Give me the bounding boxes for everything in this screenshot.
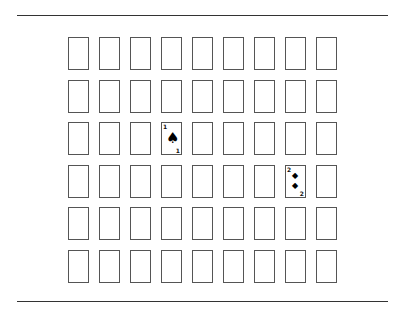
- card-face-down[interactable]: [130, 37, 151, 70]
- diamond-icon: ◆: [292, 172, 298, 180]
- card-face-down[interactable]: [223, 122, 244, 155]
- card-face-down[interactable]: [285, 207, 306, 240]
- card-face-down[interactable]: [99, 80, 120, 113]
- card-face-down[interactable]: [99, 250, 120, 283]
- card-face-down[interactable]: [285, 122, 306, 155]
- card-face-down[interactable]: [192, 80, 213, 113]
- card-face-down[interactable]: [130, 122, 151, 155]
- card-face-down[interactable]: [68, 80, 89, 113]
- card-face-down[interactable]: [316, 37, 337, 70]
- card-face-down[interactable]: [316, 122, 337, 155]
- card-face-down[interactable]: [285, 37, 306, 70]
- card-face-down[interactable]: [285, 250, 306, 283]
- spade-icon: ♠: [166, 131, 179, 146]
- card-face-down[interactable]: [161, 165, 182, 198]
- card-face-down[interactable]: [99, 207, 120, 240]
- card-face-down[interactable]: [223, 37, 244, 70]
- card-face-down[interactable]: [161, 250, 182, 283]
- card-face-down[interactable]: [192, 207, 213, 240]
- bottom-divider: [17, 301, 388, 302]
- top-divider: [17, 15, 388, 16]
- card-face-down[interactable]: [99, 165, 120, 198]
- card-face-down[interactable]: [316, 165, 337, 198]
- card-face-down[interactable]: [254, 165, 275, 198]
- card-face-down[interactable]: [68, 165, 89, 198]
- card-face-down[interactable]: [285, 80, 306, 113]
- card-rank-bottom: 2: [300, 190, 304, 197]
- card-face-up-spade[interactable]: 11♠: [161, 122, 182, 155]
- diamond-icon: ◆: [292, 182, 298, 190]
- card-face-down[interactable]: [192, 165, 213, 198]
- card-grid: 11♠22◆◆: [68, 37, 337, 283]
- card-face-down[interactable]: [254, 122, 275, 155]
- card-rank-top: 2: [287, 166, 291, 173]
- card-face-down[interactable]: [68, 37, 89, 70]
- card-face-down[interactable]: [68, 122, 89, 155]
- card-face-down[interactable]: [161, 80, 182, 113]
- card-face-down[interactable]: [130, 80, 151, 113]
- card-face-down[interactable]: [161, 207, 182, 240]
- card-face-up-diamond[interactable]: 22◆◆: [285, 165, 306, 198]
- card-rank-bottom: 1: [176, 147, 180, 154]
- card-face-down[interactable]: [192, 37, 213, 70]
- card-face-down[interactable]: [99, 37, 120, 70]
- card-face-down[interactable]: [254, 37, 275, 70]
- card-face-down[interactable]: [254, 207, 275, 240]
- card-face-down[interactable]: [223, 207, 244, 240]
- card-face-down[interactable]: [130, 165, 151, 198]
- card-face-down[interactable]: [130, 250, 151, 283]
- card-face-down[interactable]: [223, 165, 244, 198]
- card-face-down[interactable]: [223, 250, 244, 283]
- card-face-down[interactable]: [223, 80, 244, 113]
- card-face-down[interactable]: [254, 250, 275, 283]
- card-face-down[interactable]: [316, 80, 337, 113]
- card-face-down[interactable]: [130, 207, 151, 240]
- card-face-down[interactable]: [68, 207, 89, 240]
- card-face-down[interactable]: [99, 122, 120, 155]
- card-face-down[interactable]: [68, 250, 89, 283]
- card-face-down[interactable]: [316, 250, 337, 283]
- card-face-down[interactable]: [192, 250, 213, 283]
- card-face-down[interactable]: [192, 122, 213, 155]
- card-face-down[interactable]: [254, 80, 275, 113]
- card-face-down[interactable]: [161, 37, 182, 70]
- card-face-down[interactable]: [316, 207, 337, 240]
